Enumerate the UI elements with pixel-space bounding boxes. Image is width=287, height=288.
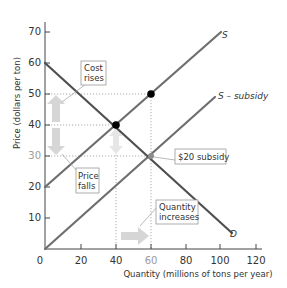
y-tick-30: 30	[28, 150, 41, 161]
supply-curve-label: S	[222, 30, 228, 40]
y-tick-70: 70	[28, 26, 41, 37]
x-tick-20: 20	[75, 255, 88, 266]
x-tick-60: 60	[145, 255, 158, 266]
svg-text:increases: increases	[159, 212, 200, 222]
y-tick-50: 50	[28, 88, 41, 99]
supply-minus-subsidy-curve	[45, 97, 215, 249]
y-tick-60: 60	[28, 57, 41, 68]
svg-text:Price: Price	[78, 171, 99, 181]
quantity-increases-arrow	[121, 227, 149, 245]
supply-price-after-point	[147, 90, 155, 98]
annotation-quantity-increases: Quantity increases	[156, 200, 200, 224]
y-tick-10: 10	[28, 212, 41, 223]
y-tick-labels: 10 20 30 40 50 60 70	[28, 26, 41, 223]
equilibrium-after-point	[148, 153, 154, 159]
price-falls-arrow	[47, 128, 65, 155]
annotation-price-falls: Price falls	[76, 168, 99, 193]
curves	[45, 32, 232, 249]
x-tick-80: 80	[180, 255, 193, 266]
x-tick-0: 0	[37, 255, 43, 266]
cost-rises-arrow	[47, 95, 65, 122]
x-axis-title: Quantity (millions of tons per year)	[123, 269, 272, 279]
x-tick-labels: 0 20 40 60 80 100 120	[37, 255, 266, 266]
equilibrium-before-point	[112, 121, 120, 129]
svg-text:Cost: Cost	[84, 63, 104, 73]
x-tick-100: 100	[210, 255, 229, 266]
subsidy-chart: 10 20 30 40 50 60 70 0 20 40 60 80 100 1…	[0, 0, 287, 288]
y-axis-title: Price (dollars per ton)	[12, 57, 22, 149]
annotation-subsidy: $20 subsidy	[175, 149, 229, 164]
demand-curve-label: D	[230, 229, 237, 239]
annotation-cost-rises: Cost rises	[81, 61, 106, 85]
svg-text:Quantity: Quantity	[159, 202, 196, 212]
svg-text:$20 subsidy: $20 subsidy	[178, 152, 229, 162]
y-tick-20: 20	[28, 181, 41, 192]
svg-text:falls: falls	[78, 181, 96, 191]
x-tick-40: 40	[110, 255, 123, 266]
y-tick-40: 40	[28, 119, 41, 130]
supply-minus-subsidy-label: S – subsidy	[218, 91, 269, 101]
demand-curve	[45, 63, 232, 233]
x-tick-120: 120	[246, 255, 265, 266]
axes	[45, 22, 262, 249]
svg-text:rises: rises	[84, 73, 105, 83]
